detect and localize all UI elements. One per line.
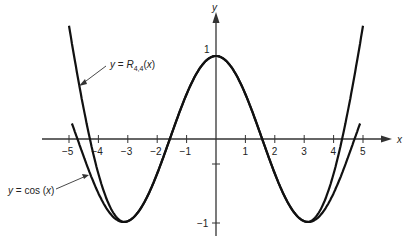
y-tick-label-1: 1 <box>204 44 210 55</box>
x-axis-label: x <box>396 134 403 145</box>
x-tick-label: 1 <box>242 146 248 157</box>
x-tick-label: −2 <box>150 146 162 157</box>
cos-label: y = cos (x) <box>7 185 54 196</box>
cos-pointer <box>56 176 86 189</box>
y-axis-label: y <box>211 2 218 13</box>
chart-canvas: x y −5−4−3−2−112345 1 −1 y = R4,4(x) y =… <box>0 0 412 247</box>
x-tick-label: 3 <box>301 146 307 157</box>
x-tick-label: 2 <box>272 146 278 157</box>
y-tick-label-neg1: −1 <box>197 218 209 229</box>
x-ticks: −5−4−3−2−112345 <box>62 135 366 157</box>
x-tick-label: −3 <box>121 146 133 157</box>
cos-pointer-arrow-icon <box>82 174 89 179</box>
x-tick-label: 4 <box>331 146 337 157</box>
x-axis-arrow-icon <box>381 136 392 143</box>
x-tick-label: −5 <box>62 146 74 157</box>
r44-pointer-arrow-icon <box>79 79 87 86</box>
x-tick-label: −1 <box>180 146 192 157</box>
y-axis-arrow-icon <box>213 12 220 23</box>
r44-label: y = R4,4(x) <box>109 59 155 72</box>
x-tick-label: 5 <box>360 146 366 157</box>
